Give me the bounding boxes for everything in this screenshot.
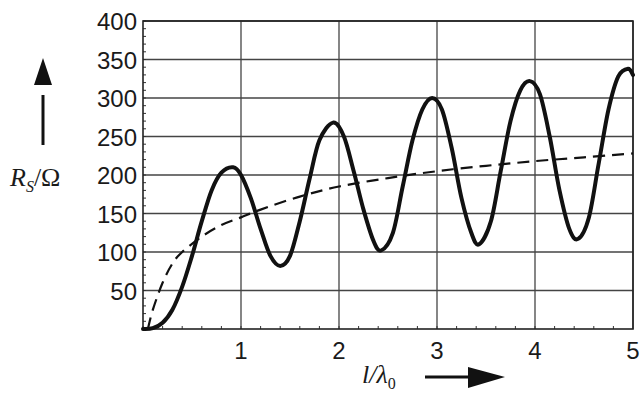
y-axis-arrow-icon: [34, 58, 52, 145]
x-axis-arrow-icon: [425, 367, 505, 388]
y-tick-label: 400: [97, 8, 137, 35]
y-tick-label: 350: [97, 47, 137, 74]
y-tick-label: 100: [97, 239, 137, 266]
y-tick-label: 250: [97, 124, 137, 151]
x-tick-label: 1: [234, 337, 247, 364]
grid-lines: [143, 21, 633, 329]
x-tick-label: 2: [332, 337, 345, 364]
y-tick-label: 300: [97, 85, 137, 112]
x-tick-label: 4: [528, 337, 541, 364]
chart: 50100150200250300350400 12345 RS/Ω l/λ0: [0, 0, 641, 393]
x-tick-label: 5: [626, 337, 639, 364]
y-tick-label: 150: [97, 201, 137, 228]
x-tick-label: 3: [430, 337, 443, 364]
y-axis-label: RS/Ω: [9, 163, 60, 195]
x-axis-label: l/λ0: [362, 360, 396, 392]
y-tick-label: 200: [97, 162, 137, 189]
y-tick-label: 50: [110, 278, 137, 305]
x-axis-ticks: 12345: [234, 337, 639, 364]
y-axis-ticks: 50100150200250300350400: [97, 8, 137, 305]
